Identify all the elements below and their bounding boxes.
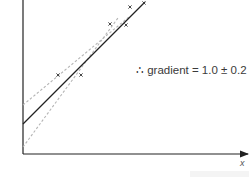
footer-bar: [190, 171, 249, 177]
min-gradient-line: [23, 16, 130, 105]
best-fit-line: [23, 2, 145, 124]
data-point-cross-icon: [108, 22, 111, 25]
data-point-cross-icon: [128, 5, 131, 8]
x-axis-label: x: [240, 158, 245, 168]
gradient-annotation: ∴ gradient = 1.0 ± 0.2: [136, 63, 247, 77]
max-gradient-line: [23, 18, 118, 147]
data-point-cross-icon: [79, 73, 82, 76]
data-point-cross-icon: [124, 23, 127, 26]
data-point-cross-icon: [142, 1, 145, 4]
data-points: [56, 1, 145, 76]
gradient-plot: [0, 0, 249, 177]
